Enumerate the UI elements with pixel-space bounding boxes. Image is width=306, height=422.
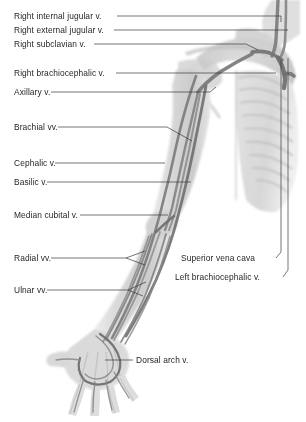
label-left-brachiocephalic-v: Left brachiocephalic v. <box>175 273 260 282</box>
label-right-brachiocephalic-v: Right brachiocephalic v. <box>14 69 105 78</box>
label-superior-vena-cava: Superior vena cava <box>181 254 255 263</box>
label-radial-vv: Radial vv. <box>14 254 51 263</box>
thorax-ribcage <box>236 70 298 212</box>
label-cephalic-v: Cephalic v. <box>14 159 56 168</box>
label-median-cubital-v: Median cubital v. <box>14 211 78 220</box>
label-basilic-v: Basilic v. <box>14 178 47 187</box>
label-right-subclavian-v: Right subclavian v. <box>14 40 86 49</box>
label-right-internal-jugular-v: Right internal jugular v. <box>14 12 102 21</box>
label-ulnar-vv: Ulnar vv. <box>14 286 47 295</box>
label-dorsal-arch-v: Dorsal arch v. <box>136 356 188 365</box>
label-axillary-v: Axillary v. <box>14 88 50 97</box>
label-right-external-jugular-v: Right external jugular v. <box>14 26 104 35</box>
label-brachial-vv: Brachial vv. <box>14 123 58 132</box>
